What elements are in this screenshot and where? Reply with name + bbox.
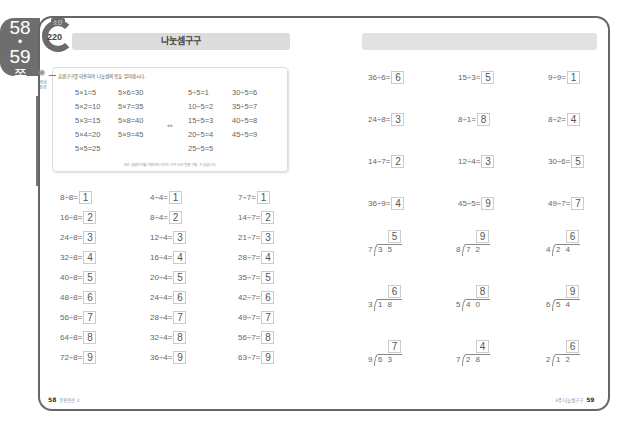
answer-box[interactable]: 8: [83, 331, 96, 344]
quotient-box[interactable]: 9: [566, 285, 579, 298]
answer-box[interactable]: 7: [83, 311, 96, 324]
answer-box[interactable]: 7: [261, 311, 274, 324]
answer-box[interactable]: 2: [83, 211, 96, 224]
left-footer: 58 응용연산 2: [48, 396, 80, 403]
answer-box[interactable]: 1: [567, 71, 580, 84]
division-problem: 8÷4= 2: [150, 211, 182, 224]
answer-box[interactable]: 6: [173, 291, 186, 304]
badge-number: 220: [47, 32, 62, 42]
answer-box[interactable]: 8: [261, 331, 274, 344]
concept-label: 개념 정리: [39, 80, 49, 90]
division-problem: 48÷8= 6: [60, 291, 96, 304]
answer-box[interactable]: 9: [173, 351, 186, 364]
badge-label: 소단: [51, 18, 65, 25]
division-problem: 72÷8= 9: [60, 351, 96, 364]
answer-box[interactable]: 4: [83, 251, 96, 264]
answer-box[interactable]: 4: [173, 251, 186, 264]
divisor: 7: [456, 355, 460, 364]
answer-box[interactable]: 4: [391, 197, 404, 210]
division-problem: 7÷7= 1: [238, 191, 270, 204]
division-problem: 15÷3= 5: [458, 71, 494, 84]
answer-box[interactable]: 5: [83, 271, 96, 284]
division-problem: 9÷9= 1: [548, 71, 580, 84]
divisor: 6: [546, 300, 550, 309]
division-problem: 64÷8= 8: [60, 331, 96, 344]
answer-box[interactable]: 3: [261, 231, 274, 244]
division-problem: 42÷7= 6: [238, 291, 274, 304]
division-fact: 40÷5=8: [232, 116, 257, 125]
division-problem: 12÷4= 3: [458, 155, 494, 168]
answer-box[interactable]: 3: [83, 231, 96, 244]
answer-box[interactable]: 9: [481, 197, 494, 210]
answer-box[interactable]: 9: [261, 351, 274, 364]
answer-box[interactable]: 6: [391, 71, 404, 84]
division-fact: 25÷5=5: [188, 144, 213, 153]
answer-box[interactable]: 3: [481, 155, 494, 168]
dividend: 40: [466, 300, 485, 309]
answer-box[interactable]: 9: [83, 351, 96, 364]
division-problem: 28÷4= 7: [150, 311, 186, 324]
division-problem: 36÷4= 9: [150, 351, 186, 364]
division-problem: 63÷7= 9: [238, 351, 274, 364]
division-problem: 16÷4= 4: [150, 251, 186, 264]
equivalence-arrow-icon: ⇔: [167, 122, 173, 130]
divisor: 9: [368, 355, 372, 364]
answer-box[interactable]: 2: [261, 211, 274, 224]
division-fact: 5÷5=1: [188, 88, 209, 97]
answer-box[interactable]: 1: [257, 191, 270, 204]
dividend: 18: [378, 300, 397, 309]
division-problem: 8÷8= 1: [60, 191, 92, 204]
multiplication-fact: 5×9=45: [118, 130, 143, 139]
quotient-box[interactable]: 6: [566, 230, 579, 243]
multiplication-fact: 5×7=35: [118, 102, 143, 111]
quotient-box[interactable]: 6: [566, 340, 579, 353]
division-problem: 4÷4= 1: [150, 191, 182, 204]
concept-heading: 곱셈구구를 이용하여 나눗셈의 몫을 알아봅시다.: [58, 73, 145, 79]
quotient-box[interactable]: 6: [388, 285, 401, 298]
dividend: 24: [556, 245, 575, 254]
answer-box[interactable]: 7: [173, 311, 186, 324]
division-problem: 14÷7= 2: [368, 155, 404, 168]
answer-box[interactable]: 4: [567, 113, 580, 126]
answer-box[interactable]: 8: [477, 113, 490, 126]
division-problem: 24÷8= 3: [60, 231, 96, 244]
long-division-problem: 6 4 24: [546, 230, 596, 260]
multiplication-fact: 5×6=30: [118, 88, 143, 97]
division-problem: 36÷6= 6: [368, 71, 404, 84]
divisor: 8: [456, 245, 460, 254]
answer-box[interactable]: 1: [79, 191, 92, 204]
division-problem: 36÷9= 4: [368, 197, 404, 210]
quotient-box[interactable]: 8: [476, 285, 489, 298]
multiplication-fact: 5×1=5: [75, 88, 96, 97]
answer-box[interactable]: 3: [173, 231, 186, 244]
lightbulb-icon: ✺: [38, 68, 46, 78]
division-problem: 56÷7= 8: [238, 331, 274, 344]
division-problem: 8÷1= 8: [458, 113, 490, 126]
quotient-box[interactable]: 4: [476, 340, 489, 353]
division-problem: 32÷4= 8: [150, 331, 186, 344]
quotient-box[interactable]: 7: [388, 340, 401, 353]
answer-box[interactable]: 6: [261, 291, 274, 304]
division-problem: 24÷4= 6: [150, 291, 186, 304]
division-problem: 49÷7= 7: [238, 311, 274, 324]
answer-box[interactable]: 5: [571, 155, 584, 168]
division-problem: 45÷5= 9: [458, 197, 494, 210]
answer-box[interactable]: 2: [169, 211, 182, 224]
answer-box[interactable]: 8: [173, 331, 186, 344]
answer-box[interactable]: 2: [391, 155, 404, 168]
quotient-box[interactable]: 9: [476, 230, 489, 243]
divisor: 3: [368, 300, 372, 309]
answer-box[interactable]: 5: [481, 71, 494, 84]
answer-box[interactable]: 5: [261, 271, 274, 284]
answer-box[interactable]: 6: [83, 291, 96, 304]
division-problem: 21÷7= 3: [238, 231, 274, 244]
answer-box[interactable]: 3: [391, 113, 404, 126]
answer-box[interactable]: 5: [173, 271, 186, 284]
answer-box[interactable]: 4: [261, 251, 274, 264]
long-division-problem: 4 7 28: [456, 340, 506, 370]
answer-box[interactable]: 7: [571, 197, 584, 210]
quotient-box[interactable]: 5: [388, 230, 401, 243]
page-range-label: 58 • 59 쪽: [2, 18, 38, 82]
answer-box[interactable]: 1: [169, 191, 182, 204]
divisor: 7: [368, 245, 372, 254]
